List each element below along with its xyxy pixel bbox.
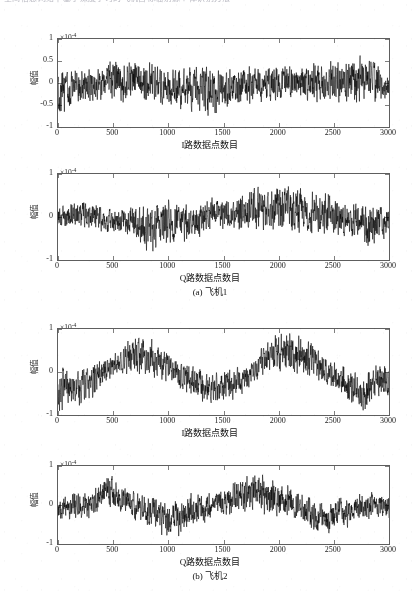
x-tick-label: 3000 bbox=[374, 416, 402, 425]
x-tick-label: 500 bbox=[98, 128, 126, 137]
x-tick-label: 1500 bbox=[209, 261, 237, 270]
x-tick-label: 1000 bbox=[153, 261, 181, 270]
y-tick-label: 0 bbox=[31, 367, 53, 375]
x-tick-label: 2500 bbox=[319, 128, 347, 137]
x-tick-label: 3000 bbox=[374, 261, 402, 270]
y-tick-label: -0.5 bbox=[31, 100, 53, 108]
y-tick-label: 1 bbox=[31, 461, 53, 469]
x-tick-label: 1500 bbox=[209, 416, 237, 425]
x-tick-label: 3000 bbox=[374, 545, 402, 554]
axes-frame-2 bbox=[57, 173, 390, 261]
x-tick-label: 0 bbox=[43, 261, 71, 270]
x-tick-label: 2500 bbox=[319, 416, 347, 425]
y-tick-label: 1 bbox=[31, 34, 53, 42]
x-axis-title-1: I路数据点数目 bbox=[0, 140, 420, 150]
x-tick-label: 2000 bbox=[264, 261, 292, 270]
cut-off-header-text: 空间信息网络中基于深度学习的飞机目标辐射源个体识别方法 bbox=[4, 0, 304, 7]
subcaption-b: (b) 飞机2 bbox=[0, 571, 420, 581]
x-tick-label: 2000 bbox=[264, 545, 292, 554]
y-tick-label: 1 bbox=[31, 169, 53, 177]
x-tick-label: 2000 bbox=[264, 128, 292, 137]
x-tick-label: 3000 bbox=[374, 128, 402, 137]
y-tick-label: 0 bbox=[31, 500, 53, 508]
x-tick-label: 0 bbox=[43, 416, 71, 425]
x-tick-label: 500 bbox=[98, 545, 126, 554]
x-tick-label: 1500 bbox=[209, 128, 237, 137]
axes-frame-1 bbox=[57, 38, 390, 128]
x-tick-label: 2500 bbox=[319, 261, 347, 270]
x-tick-label: 1500 bbox=[209, 545, 237, 554]
y-tick-label: 0 bbox=[31, 78, 53, 86]
x-tick-label: 2500 bbox=[319, 545, 347, 554]
y-tick-label: 0.5 bbox=[31, 56, 53, 64]
x-tick-label: 0 bbox=[43, 545, 71, 554]
x-tick-label: 1000 bbox=[153, 128, 181, 137]
y-tick-label: 0 bbox=[31, 212, 53, 220]
y-tick-label: 1 bbox=[31, 324, 53, 332]
x-tick-label: 1000 bbox=[153, 545, 181, 554]
x-tick-label: 2000 bbox=[264, 416, 292, 425]
x-axis-title-4: Q路数据点数目 bbox=[0, 557, 420, 567]
x-axis-title-3: I路数据点数目 bbox=[0, 428, 420, 438]
x-tick-label: 500 bbox=[98, 416, 126, 425]
scanned-figure-page: 空间信息网络中基于深度学习的飞机目标辐射源个体识别方法 ×10-4 幅值 I路数… bbox=[0, 0, 420, 600]
axes-frame-3 bbox=[57, 328, 390, 416]
x-tick-label: 500 bbox=[98, 261, 126, 270]
x-tick-label: 0 bbox=[43, 128, 71, 137]
x-tick-label: 1000 bbox=[153, 416, 181, 425]
axes-frame-4 bbox=[57, 465, 390, 545]
x-axis-title-2: Q路数据点数目 bbox=[0, 273, 420, 283]
subcaption-a: (a) 飞机1 bbox=[0, 287, 420, 297]
